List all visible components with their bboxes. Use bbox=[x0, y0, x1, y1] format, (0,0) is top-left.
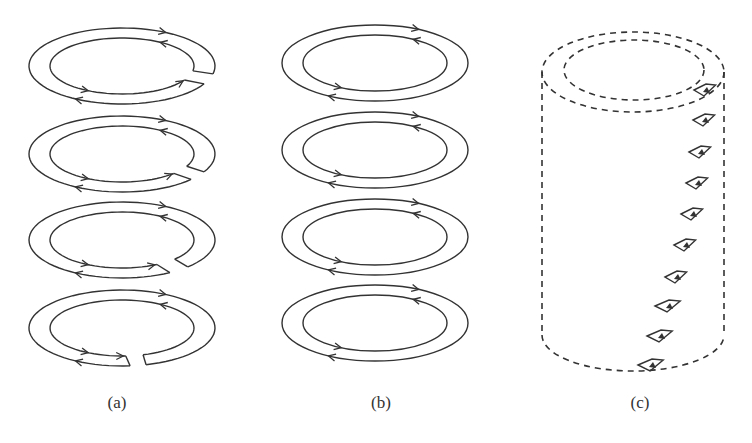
current-loop-6 bbox=[674, 239, 696, 251]
current-loop-10 bbox=[638, 359, 663, 371]
ring-pair-a4 bbox=[29, 290, 215, 367]
current-loop-7 bbox=[665, 271, 687, 283]
ring-pair-b3 bbox=[282, 199, 468, 276]
panel-label-c: (c) bbox=[631, 393, 650, 413]
panel-label-a: (a) bbox=[108, 393, 127, 413]
current-loop-3 bbox=[689, 146, 711, 158]
current-loop-5 bbox=[681, 208, 703, 220]
ring-pair-b1 bbox=[282, 25, 468, 102]
current-loop-9 bbox=[647, 330, 672, 342]
current-loop-4 bbox=[686, 177, 708, 189]
current-loop-1 bbox=[694, 84, 716, 96]
ring-pair-a2 bbox=[29, 116, 215, 193]
ring-pair-a1 bbox=[29, 28, 215, 105]
panel-c-cylinder bbox=[542, 32, 724, 371]
ring-pair-a3 bbox=[29, 202, 215, 279]
panel-label-b: (b) bbox=[371, 393, 391, 413]
panel-a-rings bbox=[29, 28, 215, 367]
figure-drawing bbox=[0, 0, 752, 443]
ring-pair-b4 bbox=[282, 285, 468, 362]
current-loop-8 bbox=[655, 300, 680, 312]
panel-b-rings bbox=[282, 25, 468, 362]
current-loop-2 bbox=[693, 114, 715, 126]
ring-pair-b2 bbox=[282, 112, 468, 189]
